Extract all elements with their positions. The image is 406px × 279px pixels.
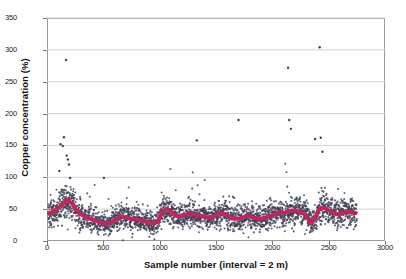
data-layer (0, 0, 406, 279)
gridlines (47, 18, 385, 209)
scatter-chart-figure: 350300250200150100500 050010001500200025… (0, 0, 406, 279)
scatter-points (47, 46, 358, 241)
